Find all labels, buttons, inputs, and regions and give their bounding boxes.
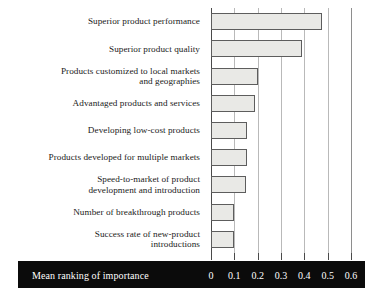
- x-tick-mark: [234, 253, 235, 260]
- category-label: Advantaged products and services: [73, 98, 205, 109]
- x-tick-mark: [281, 253, 282, 260]
- category-label: Developing low-cost products: [88, 125, 205, 136]
- x-tick-label: 0.1: [228, 269, 241, 280]
- bar: [211, 122, 247, 139]
- category-label: Superior product quality: [109, 44, 205, 55]
- bar: [211, 40, 302, 57]
- x-tick-mark: [351, 253, 352, 260]
- category-row: Developing low-cost products: [0, 117, 205, 144]
- x-tick-label: 0.2: [251, 269, 264, 280]
- category-row: Advantaged products and services: [0, 90, 205, 117]
- x-tick-label: 0.4: [298, 269, 311, 280]
- category-row: Speed-to-market of product development a…: [0, 171, 205, 198]
- x-axis-bar: Mean ranking of importance 00.10.20.30.4…: [18, 261, 365, 288]
- category-label: Number of breakthrough products: [73, 207, 205, 218]
- bar: [211, 204, 234, 221]
- x-tick-label: 0: [209, 269, 214, 280]
- gridline: [304, 8, 305, 253]
- gridline: [351, 8, 352, 253]
- bar: [211, 149, 247, 166]
- category-label: Superior product performance: [88, 16, 205, 27]
- x-tick-label: 0.3: [275, 269, 288, 280]
- x-tick-label: 0.5: [321, 269, 334, 280]
- bar: [211, 68, 258, 85]
- bar: [211, 231, 234, 248]
- category-row: Success rate of new-product introduction…: [0, 226, 205, 253]
- category-row: Products customized to local markets and…: [0, 62, 205, 89]
- category-label: Speed-to-market of product development a…: [88, 174, 205, 195]
- category-row: Superior product performance: [0, 8, 205, 35]
- chart-figure: Superior product performanceSuperior pro…: [0, 0, 385, 300]
- plot-area: [211, 8, 351, 253]
- category-row: Number of breakthrough products: [0, 199, 205, 226]
- category-label: Products customized to local markets and…: [61, 66, 205, 87]
- bar: [211, 13, 322, 30]
- x-axis-title: Mean ranking of importance: [32, 269, 149, 280]
- x-tick-mark: [258, 253, 259, 260]
- x-tick-mark: [328, 253, 329, 260]
- category-label: Products developed for multiple markets: [49, 152, 205, 163]
- category-label: Success rate of new-product introduction…: [95, 229, 205, 250]
- x-tick-mark: [211, 253, 212, 260]
- category-row: Products developed for multiple markets: [0, 144, 205, 171]
- category-row: Superior product quality: [0, 35, 205, 62]
- x-tick-mark: [304, 253, 305, 260]
- gridline: [328, 8, 329, 253]
- bar: [211, 95, 255, 112]
- x-tick-label: 0.6: [345, 269, 358, 280]
- bar: [211, 176, 246, 193]
